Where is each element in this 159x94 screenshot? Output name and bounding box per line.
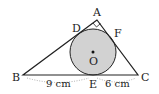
label-b: B (12, 71, 20, 84)
center-point-o (92, 51, 95, 54)
label-e: E (89, 78, 97, 91)
measure-ec: 6 cm (105, 78, 130, 89)
label-c: C (141, 71, 149, 84)
label-a: A (92, 6, 102, 19)
measure-be: 9 cm (46, 78, 71, 89)
label-f: F (114, 27, 122, 40)
triangle-incircle-diagram: A B C D E F O 9 cm 6 cm (0, 0, 159, 94)
label-d: D (72, 22, 81, 35)
label-o: O (89, 55, 98, 68)
